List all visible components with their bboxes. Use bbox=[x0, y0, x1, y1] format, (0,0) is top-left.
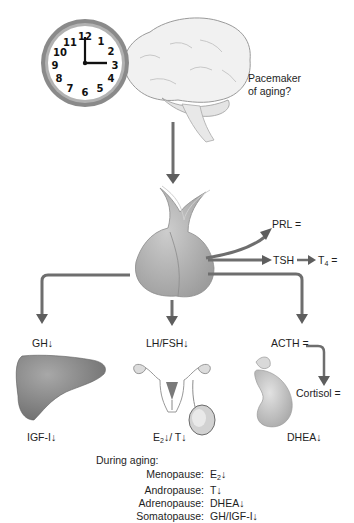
adrenal-gland-icon bbox=[255, 357, 293, 427]
dhea-label: DHEA↓ bbox=[287, 431, 321, 443]
summary-row-menopause: Menopause: E2↓ bbox=[96, 468, 258, 484]
summary-title: During aging: bbox=[96, 454, 258, 467]
testis-icon bbox=[189, 380, 215, 435]
svg-text:8: 8 bbox=[56, 73, 63, 84]
tsh-label: TSH bbox=[273, 254, 294, 266]
svg-text:7: 7 bbox=[67, 83, 74, 94]
cortisol-label: Cortisol = bbox=[296, 387, 341, 399]
svg-text:11: 11 bbox=[63, 37, 77, 48]
uterus-ovaries-icon bbox=[134, 364, 211, 412]
svg-text:1: 1 bbox=[98, 36, 105, 47]
liver-icon bbox=[16, 355, 105, 420]
pacemaker-label-line1: Pacemaker bbox=[248, 72, 301, 84]
svg-text:3: 3 bbox=[112, 60, 119, 71]
clock-icon: 12 1 2 3 4 5 6 7 8 9 10 11 bbox=[41, 19, 129, 107]
svg-text:5: 5 bbox=[97, 83, 104, 94]
igf1-label: IGF-I↓ bbox=[27, 431, 56, 443]
prl-label: PRL = bbox=[272, 218, 301, 230]
gh-label: GH↓ bbox=[32, 337, 53, 349]
brain-icon bbox=[124, 18, 250, 142]
svg-text:4: 4 bbox=[108, 73, 115, 84]
summary-row-somatopause: Somatopause: GH/IGF-I↓ bbox=[96, 510, 258, 523]
svg-text:6: 6 bbox=[82, 87, 89, 98]
summary-row-adrenopause: Adrenopause: DHEA↓ bbox=[96, 497, 258, 510]
arrow-brain-to-pituitary bbox=[166, 122, 180, 184]
svg-text:10: 10 bbox=[53, 47, 67, 58]
acth-label: ACTH = bbox=[271, 337, 309, 349]
pacemaker-label-line2: of aging? bbox=[248, 85, 291, 97]
svg-text:9: 9 bbox=[52, 60, 59, 71]
pituitary-gland-icon bbox=[135, 186, 214, 297]
lhfsh-label: LH/FSH↓ bbox=[146, 337, 189, 349]
aging-summary: During aging: Menopause: E2↓ Andropause:… bbox=[96, 454, 258, 523]
summary-row-andropause: Andropause: T↓ bbox=[96, 484, 258, 497]
e2-t-label: E2↓/ T↓ bbox=[153, 431, 186, 447]
t4-label: T4 = bbox=[318, 254, 337, 270]
svg-text:2: 2 bbox=[108, 46, 115, 57]
